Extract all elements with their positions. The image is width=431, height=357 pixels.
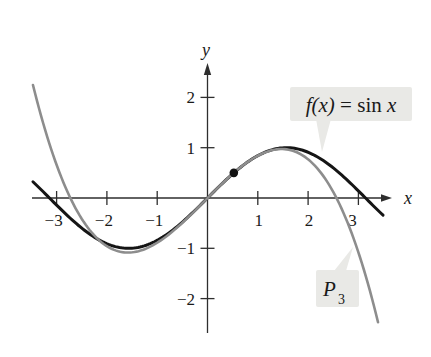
y-tick-label: 2 — [187, 88, 196, 107]
x-tick-label: 2 — [305, 211, 314, 230]
x-tick-label: −3 — [45, 211, 63, 230]
f-callout: f(x) = sin x — [290, 87, 412, 152]
x-tick-label: −2 — [95, 211, 113, 230]
f-callout-tail — [316, 119, 331, 152]
p3-callout: P 3 — [316, 247, 359, 307]
f-callout-label-part: x — [386, 93, 397, 117]
f-callout-label-part: = sin — [335, 93, 387, 117]
x-tick-label: −1 — [145, 211, 163, 230]
y-tick-label: 1 — [187, 139, 196, 158]
taylor-approximation-plot: −3−2−112321−1−2 x y f(x) = sin x P 3 — [0, 0, 431, 357]
x-axis-label: x — [403, 188, 412, 208]
y-axis-label: y — [200, 40, 210, 60]
marked-point-layer — [230, 169, 239, 178]
x-axis-arrowhead — [381, 194, 392, 202]
x-tick-label: 1 — [255, 211, 264, 230]
f-callout-label-part: f(x) — [306, 93, 335, 117]
marked-point — [230, 169, 239, 178]
p-callout-label-subscript: 3 — [338, 292, 345, 307]
y-axis-arrowhead — [204, 63, 211, 75]
y-tick-label: −1 — [177, 239, 195, 258]
p-callout-label-base: P — [322, 277, 336, 301]
y-tick-label: −2 — [177, 290, 195, 309]
figure-stage: −3−2−112321−1−2 x y f(x) = sin x P 3 — [0, 0, 431, 357]
p-callout-tail — [334, 247, 353, 271]
f-callout-label: f(x) = sin x — [306, 93, 397, 117]
